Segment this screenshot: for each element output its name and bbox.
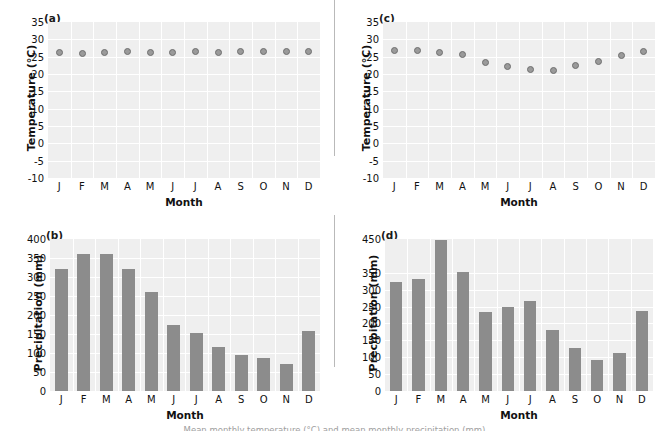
panel-c-y-tick-label: 20 bbox=[366, 69, 379, 80]
data-bar bbox=[412, 279, 425, 391]
panel-d-x-tick-label: M bbox=[437, 394, 446, 405]
data-bar bbox=[100, 254, 113, 391]
panel-b-y-tick-label: 250 bbox=[27, 291, 46, 302]
panel-a-x-tick-label: A bbox=[124, 181, 131, 192]
data-point-marker bbox=[550, 67, 557, 74]
panel-d-y-tick-label: 450 bbox=[362, 234, 381, 245]
data-point-marker bbox=[79, 50, 86, 57]
panel-a-y-tick-label: -5 bbox=[34, 155, 44, 166]
panel-c-plot-area bbox=[383, 22, 655, 178]
panel-d-x-tick-label: S bbox=[572, 394, 578, 405]
panel-d-y-tick-label: 300 bbox=[362, 284, 381, 295]
gridline-vertical bbox=[632, 22, 633, 178]
gridline-vertical bbox=[452, 239, 453, 391]
data-bar bbox=[190, 333, 203, 391]
panel-c-x-tick-label: S bbox=[572, 181, 578, 192]
panel-a-plot-area bbox=[48, 22, 320, 178]
data-bar bbox=[502, 307, 515, 391]
panel-b-y-tick-label: 300 bbox=[27, 272, 46, 283]
gridline-vertical bbox=[430, 239, 431, 391]
panel-a-x-tick-label: O bbox=[259, 181, 267, 192]
panel-d-x-tick-label: F bbox=[416, 394, 422, 405]
panel-d-x-tick-label: J bbox=[395, 394, 398, 405]
data-bar bbox=[479, 312, 492, 391]
panel-d-x-tick-label: D bbox=[638, 394, 646, 405]
gridline-vertical bbox=[116, 22, 117, 178]
data-point-marker bbox=[618, 52, 625, 59]
gridline-vertical bbox=[496, 22, 497, 178]
panel-d-x-tick-label: M bbox=[481, 394, 490, 405]
panel-c-y-ticks: -10-505101520253035 bbox=[343, 22, 379, 178]
panel-d-x-tick-label: J bbox=[506, 394, 509, 405]
panel-d-y-axis-line bbox=[334, 215, 335, 367]
panel-d-y-ticks: 050100150200250300350450 bbox=[341, 239, 381, 391]
panel-a-x-tick-label: J bbox=[194, 181, 197, 192]
gridline-vertical bbox=[474, 239, 475, 391]
panel-a-x-tick-label: M bbox=[146, 181, 155, 192]
gridline-vertical bbox=[610, 22, 611, 178]
panel-a-y-tick-label: 10 bbox=[31, 103, 44, 114]
panel-c-y-tick-label: 30 bbox=[366, 34, 379, 45]
gridline-vertical bbox=[230, 239, 231, 391]
panel-a-y-tick-label: 5 bbox=[38, 121, 44, 132]
gridline-vertical bbox=[140, 239, 141, 391]
panel-c-y-tick-label: 15 bbox=[366, 86, 379, 97]
panel-d-x-tick-label: J bbox=[529, 394, 532, 405]
gridline-vertical bbox=[73, 239, 74, 391]
data-bar bbox=[280, 364, 293, 391]
data-point-marker bbox=[124, 48, 131, 55]
data-bar bbox=[55, 269, 68, 391]
gridline-vertical bbox=[542, 22, 543, 178]
data-bar bbox=[235, 355, 248, 391]
panel-b-x-tick-label: F bbox=[81, 394, 87, 405]
gridline-vertical bbox=[564, 22, 565, 178]
panel-c-y-tick-label: 5 bbox=[373, 121, 379, 132]
panel-b-y-tick-label: 350 bbox=[27, 253, 46, 264]
data-point-marker bbox=[527, 66, 534, 73]
panel-b-x-tick-label: J bbox=[172, 394, 175, 405]
panel-d-plot-area bbox=[385, 239, 653, 391]
panel-d-x-ticks: JFMAMJJASOND bbox=[385, 394, 653, 408]
data-point-marker bbox=[215, 49, 222, 56]
data-point-marker bbox=[101, 49, 108, 56]
panel-b-x-tick-label: N bbox=[283, 394, 290, 405]
gridline-vertical bbox=[298, 239, 299, 391]
gridline-vertical bbox=[631, 239, 632, 391]
data-bar bbox=[591, 360, 604, 391]
panel-a-x-tick-label: S bbox=[237, 181, 243, 192]
panel-a-y-tick-label: 25 bbox=[31, 51, 44, 62]
gridline-vertical bbox=[184, 22, 185, 178]
panel-d-y-tick-label: 150 bbox=[362, 335, 381, 346]
gridline-vertical bbox=[252, 22, 253, 178]
data-bar bbox=[435, 240, 448, 391]
data-bar bbox=[212, 347, 225, 391]
panel-c-x-tick-label: A bbox=[459, 181, 466, 192]
gridline-vertical bbox=[118, 239, 119, 391]
data-point-marker bbox=[169, 49, 176, 56]
gridline-vertical bbox=[297, 22, 298, 178]
data-point-marker bbox=[391, 47, 398, 54]
panel-b-y-tick-label: 0 bbox=[40, 386, 46, 397]
figure-caption: Mean monthly temperature (°C) and mean m… bbox=[0, 424, 669, 431]
panel-c-y-tick-label: 0 bbox=[373, 138, 379, 149]
panel-d-x-tick-label: A bbox=[549, 394, 556, 405]
panel-a-y-tick-label: 15 bbox=[31, 86, 44, 97]
panel-b-x-tick-label: J bbox=[60, 394, 63, 405]
gridline-vertical bbox=[564, 239, 565, 391]
panel-a-x-tick-label: F bbox=[79, 181, 85, 192]
data-bar bbox=[569, 348, 582, 391]
panel-c-x-axis-title: Month bbox=[383, 196, 655, 208]
gridline-vertical bbox=[253, 239, 254, 391]
panel-a-y-tick-label: 30 bbox=[31, 34, 44, 45]
panel-b-x-tick-label: J bbox=[195, 394, 198, 405]
panel-b-x-tick-label: A bbox=[125, 394, 132, 405]
figure-panel-grid: (a) Temperature (°C) -10-505101520253035… bbox=[0, 0, 669, 431]
panel-a-x-tick-label: M bbox=[100, 181, 109, 192]
panel-d-y-tick-label: 100 bbox=[362, 352, 381, 363]
data-bar bbox=[145, 292, 158, 391]
panel-d-y-tick-label: 200 bbox=[362, 318, 381, 329]
panel-c-x-tick-label: J bbox=[529, 181, 532, 192]
gridline-vertical bbox=[95, 239, 96, 391]
data-bar bbox=[122, 269, 135, 391]
panel-a-x-tick-label: N bbox=[282, 181, 289, 192]
